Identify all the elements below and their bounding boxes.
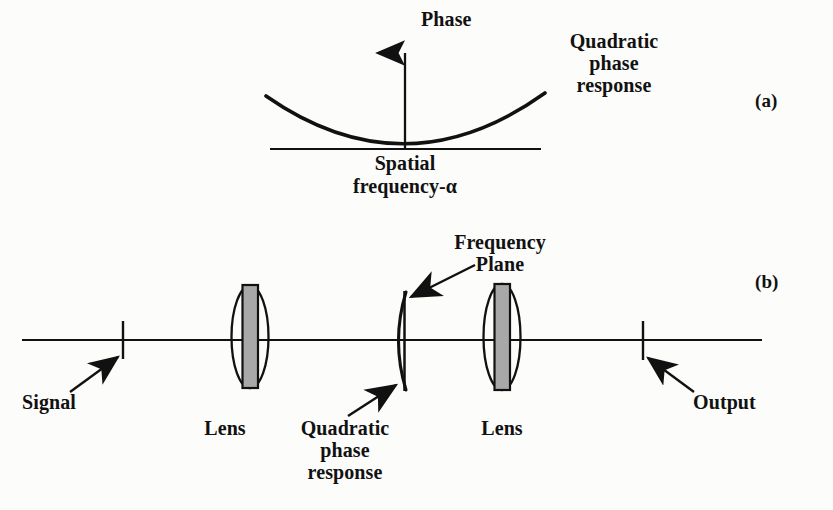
- panel-b-graphics: [22, 265, 762, 416]
- output-leader-arrow: [648, 358, 694, 392]
- left-lens: [232, 285, 269, 388]
- frequency-plane-label-line2: Plane: [476, 254, 524, 275]
- panel-a-x-axis-label-line2: frequency-α: [353, 176, 457, 197]
- panel-a-annotation-line2: phase: [589, 53, 638, 74]
- quadratic-phase-label-line2: phase: [320, 440, 369, 461]
- panel-a-x-axis-label-line1: Spatial: [375, 153, 436, 174]
- panel-a-graphics: [266, 53, 545, 149]
- right-lens-label: Lens: [481, 418, 523, 439]
- quadratic-phase-label-line3: response: [308, 462, 383, 483]
- optics-figure: Phase Spatial frequency-α Quadratic phas…: [0, 0, 833, 510]
- output-label: Output: [693, 392, 756, 413]
- signal-label: Signal: [22, 392, 76, 413]
- panel-b-id-label: (b): [755, 272, 779, 292]
- panel-a-y-axis-label: Phase: [421, 9, 472, 30]
- quadratic-phase-label-line1: Quadratic: [301, 418, 390, 439]
- panel-a-annotation-line3: response: [577, 75, 652, 96]
- frequency-plane-leader-arrow: [411, 265, 475, 297]
- right-lens: [484, 284, 521, 390]
- frequency-plane-label-line1: Frequency: [454, 232, 546, 253]
- panel-a-annotation-line1: Quadratic: [570, 31, 659, 52]
- figure-graphics: [0, 0, 833, 510]
- left-lens-label: Lens: [204, 418, 246, 439]
- signal-leader-arrow: [70, 357, 118, 392]
- quadratic-phase-leader-arrow: [348, 385, 396, 416]
- panel-a-id-label: (a): [755, 91, 777, 111]
- left-lens-body: [243, 285, 259, 388]
- right-lens-body: [495, 284, 511, 390]
